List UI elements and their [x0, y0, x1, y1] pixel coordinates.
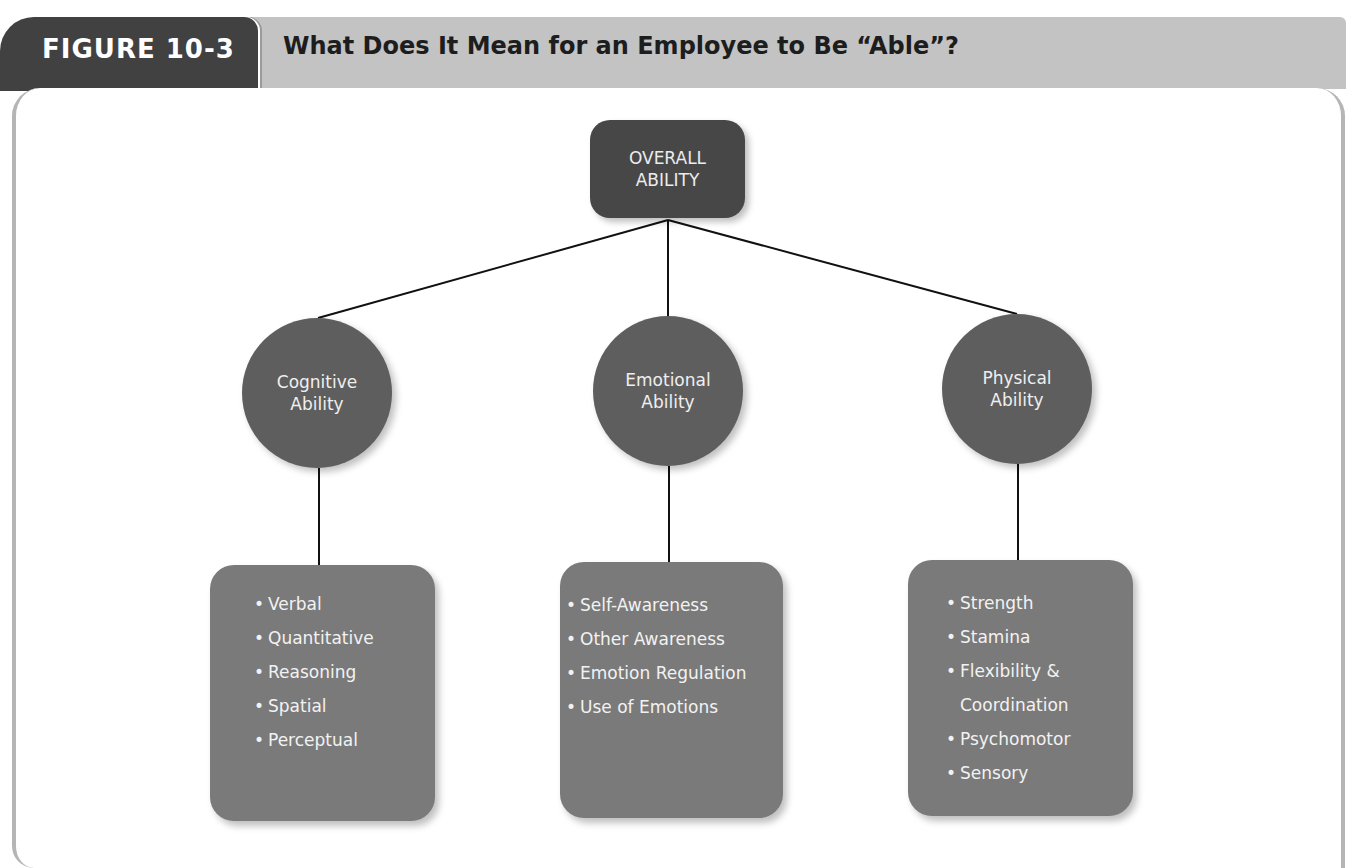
- list-item: •Flexibility &: [946, 654, 1133, 688]
- cognitive-line2: Ability: [290, 393, 343, 415]
- physical-line1: Physical: [982, 367, 1051, 389]
- cognitive-ability-list: •Verbal •Quantitative •Reasoning •Spatia…: [254, 587, 435, 757]
- list-item: •Emotion Regulation: [566, 656, 783, 690]
- connector-root-physical: [668, 220, 1017, 314]
- bullet-icon: •: [946, 620, 960, 654]
- cognitive-line1: Cognitive: [277, 371, 357, 393]
- list-item: •Sensory: [946, 756, 1133, 790]
- emotional-ability-node: Emotional Ability: [593, 316, 743, 466]
- physical-ability-list: •Strength •Stamina •Flexibility & Coordi…: [946, 586, 1133, 790]
- bullet-icon: •: [254, 689, 268, 723]
- bullet-icon: •: [254, 621, 268, 655]
- emotional-line2: Ability: [641, 391, 694, 413]
- list-item: •Spatial: [254, 689, 435, 723]
- overall-ability-node: OVERALL ABILITY: [590, 120, 745, 218]
- overall-ability-line1: OVERALL: [629, 147, 706, 169]
- list-item: •Verbal: [254, 587, 435, 621]
- bullet-icon: •: [566, 588, 580, 622]
- bullet-icon: •: [566, 690, 580, 724]
- bullet-icon: •: [946, 756, 960, 790]
- bullet-icon: •: [254, 655, 268, 689]
- list-item: •Self-Awareness: [566, 588, 783, 622]
- list-item: •Psychomotor: [946, 722, 1133, 756]
- cognitive-ability-list-box: •Verbal •Quantitative •Reasoning •Spatia…: [210, 565, 435, 821]
- bullet-icon: •: [566, 622, 580, 656]
- emotional-ability-list-box: •Self-Awareness •Other Awareness •Emotio…: [560, 562, 783, 818]
- emotional-ability-list: •Self-Awareness •Other Awareness •Emotio…: [566, 588, 783, 724]
- physical-line2: Ability: [990, 389, 1043, 411]
- list-item: •Strength: [946, 586, 1133, 620]
- bullet-icon: •: [254, 587, 268, 621]
- list-item: •Perceptual: [254, 723, 435, 757]
- bullet-icon: •: [946, 586, 960, 620]
- emotional-line1: Emotional: [625, 369, 710, 391]
- list-item-continuation: Coordination: [946, 688, 1133, 722]
- list-item: •Stamina: [946, 620, 1133, 654]
- physical-ability-node: Physical Ability: [942, 314, 1092, 464]
- bullet-icon: •: [566, 656, 580, 690]
- list-item: •Quantitative: [254, 621, 435, 655]
- bullet-icon: •: [254, 723, 268, 757]
- overall-ability-line2: ABILITY: [636, 169, 700, 191]
- connector-root-cognitive: [318, 220, 668, 318]
- list-item: •Use of Emotions: [566, 690, 783, 724]
- list-item: •Reasoning: [254, 655, 435, 689]
- list-item: •Other Awareness: [566, 622, 783, 656]
- cognitive-ability-node: Cognitive Ability: [242, 318, 392, 468]
- physical-ability-list-box: •Strength •Stamina •Flexibility & Coordi…: [908, 560, 1133, 816]
- bullet-icon: •: [946, 722, 960, 756]
- bullet-icon: •: [946, 654, 960, 688]
